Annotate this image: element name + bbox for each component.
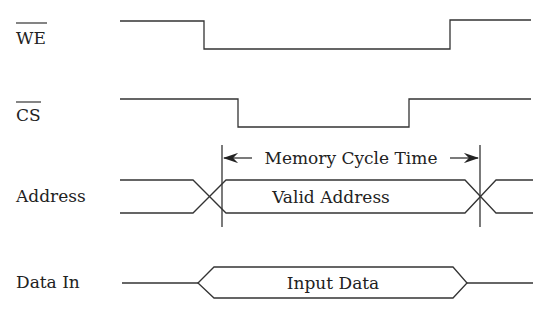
timing-diagram: WE CS Memory Cycle Time Address Valid Ad… bbox=[0, 0, 549, 319]
cs-label: CS bbox=[16, 105, 41, 125]
data-in-label: Data In bbox=[16, 272, 80, 292]
cycle-time-label: Memory Cycle Time bbox=[265, 148, 438, 168]
address-signal-row: Address Valid Address bbox=[15, 180, 533, 213]
address-label: Address bbox=[15, 186, 86, 206]
cs-waveform bbox=[120, 99, 531, 127]
we-signal-row: WE bbox=[16, 20, 531, 49]
cs-signal-row: CS bbox=[16, 99, 531, 127]
input-data-label: Input Data bbox=[287, 273, 379, 293]
valid-address-label: Valid Address bbox=[271, 187, 390, 207]
cycle-time-annotation: Memory Cycle Time bbox=[222, 145, 480, 227]
we-label: WE bbox=[16, 28, 46, 48]
we-waveform bbox=[120, 20, 531, 49]
data-in-signal-row: Data In Input Data bbox=[16, 267, 533, 298]
